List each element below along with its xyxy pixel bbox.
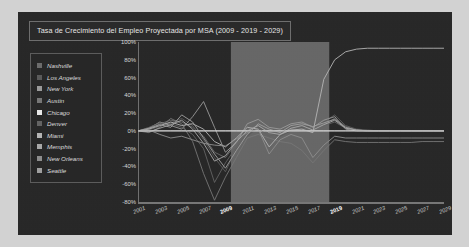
page-root: Tasa de Crecimiento del Empleo Proyectad… <box>0 0 469 247</box>
x-axis-tick-label: 2009 <box>220 205 234 215</box>
y-axis-tick-label: -40% <box>122 163 136 169</box>
x-axis-tick-label: 2015 <box>285 205 299 215</box>
legend-item-chicago[interactable]: Chicago <box>37 106 97 118</box>
highlight-band <box>231 42 329 202</box>
y-axis-tick-label: 20% <box>124 110 136 116</box>
legend-swatch-icon <box>37 98 42 103</box>
legend-swatch-icon <box>37 121 42 126</box>
legend-item-label: Chicago <box>47 109 70 116</box>
legend-swatch-icon <box>37 144 42 149</box>
legend-item-label: Seattle <box>47 167 66 174</box>
legend-swatch-icon <box>37 86 42 91</box>
legend-item-memphis[interactable]: Memphis <box>37 141 97 153</box>
y-axis-tick-label: 0% <box>127 128 136 134</box>
chart-legend: NashvilleLos AngelesNew YorkAustinChicag… <box>30 53 102 183</box>
legend-item-miami[interactable]: Miami <box>37 130 97 142</box>
legend-item-label: Memphis <box>47 143 72 150</box>
x-axis-tick-label: 2001 <box>132 205 146 215</box>
legend-item-label: New York <box>47 85 73 92</box>
legend-item-label: Nashville <box>47 62 72 69</box>
y-axis-labels: 100%80%60%40%20%0%-20%-40%-60%-80% <box>114 42 136 202</box>
plot-area: 100%80%60%40%20%0%-20%-40%-60%-80% 20012… <box>114 42 444 222</box>
legend-item-seattle[interactable]: Seattle <box>37 164 97 176</box>
page-title: Tasa de Crecimiento del Empleo Proyectad… <box>37 26 283 35</box>
chart-title-box: Tasa de Crecimiento del Empleo Proyectad… <box>29 21 291 41</box>
x-axis-tick-label: 2003 <box>154 205 168 215</box>
y-axis-tick-label: -80% <box>122 199 136 205</box>
legend-item-new-orleans[interactable]: New Orleans <box>37 153 97 165</box>
legend-swatch-icon <box>37 75 42 80</box>
legend-swatch-icon <box>37 156 42 161</box>
x-axis-labels: 2001200320052007200920112013201520172019… <box>138 205 444 221</box>
legend-item-new-york[interactable]: New York <box>37 83 97 95</box>
x-axis-tick-label: 2013 <box>263 205 277 215</box>
x-axis-tick-label: 2029 <box>438 205 452 215</box>
legend-item-austin[interactable]: Austin <box>37 95 97 107</box>
x-axis-tick-label: 2025 <box>395 205 409 215</box>
chart-panel: Tasa de Crecimiento del Empleo Proyectad… <box>18 12 452 235</box>
legend-item-los-angeles[interactable]: Los Angeles <box>37 72 97 84</box>
y-axis-tick-label: 100% <box>121 39 136 45</box>
legend-item-denver[interactable]: Denver <box>37 118 97 130</box>
legend-item-label: Denver <box>47 120 67 127</box>
legend-item-label: New Orleans <box>47 155 83 162</box>
legend-item-nashville[interactable]: Nashville <box>37 60 97 72</box>
x-axis-tick-label: 2005 <box>176 205 190 215</box>
legend-item-label: Los Angeles <box>47 74 81 81</box>
legend-swatch-icon <box>37 63 42 68</box>
y-axis-tick-label: 60% <box>124 75 136 81</box>
x-axis-tick-label: 2007 <box>198 205 212 215</box>
y-axis-tick-label: -20% <box>122 146 136 152</box>
legend-item-label: Miami <box>47 132 64 139</box>
x-axis-tick-label: 2023 <box>373 205 387 215</box>
plot-canvas <box>138 42 444 222</box>
legend-swatch-icon <box>37 110 42 115</box>
x-axis-tick-label: 2027 <box>416 205 430 215</box>
line-chart-svg <box>138 42 444 208</box>
legend-swatch-icon <box>37 168 42 173</box>
x-axis-tick-label: 2021 <box>351 205 365 215</box>
x-axis-tick-label: 2011 <box>242 205 255 215</box>
y-axis-tick-label: -60% <box>122 181 136 187</box>
legend-swatch-icon <box>37 133 42 138</box>
y-axis-tick-label: 40% <box>124 92 136 98</box>
y-axis-tick-label: 80% <box>124 57 136 63</box>
x-axis-tick-label: 2019 <box>329 205 343 215</box>
legend-item-label: Austin <box>47 97 64 104</box>
x-axis-tick-label: 2017 <box>307 205 321 215</box>
